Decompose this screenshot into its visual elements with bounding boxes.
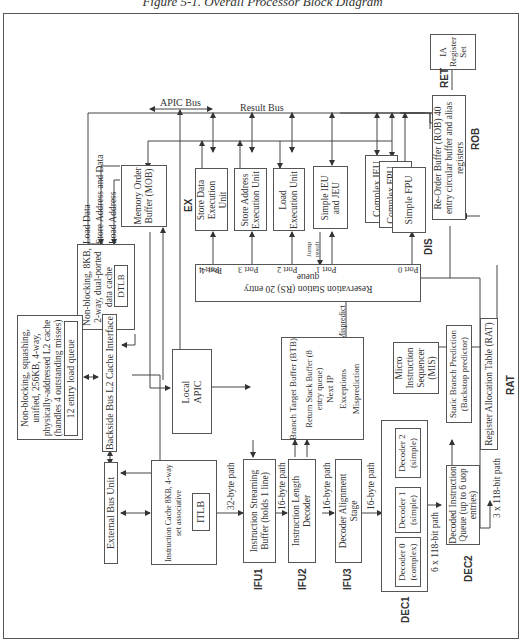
apic-bus-label: APIC Bus <box>160 97 201 108</box>
stage-ex: EX <box>183 199 194 212</box>
store-address-data-label: Store Address and Data <box>95 155 106 244</box>
local-apic: Local APIC <box>172 349 212 434</box>
port-4: Port 4 <box>199 265 220 275</box>
load-execution-unit: Load Execution Unit <box>273 168 305 231</box>
stage-dec2: DEC2 <box>463 555 474 582</box>
path-32-byte-label: 32-byte path <box>226 462 237 510</box>
stage-dec1: DEC1 <box>400 596 411 623</box>
stage-ret: RET <box>439 68 450 88</box>
stage-ifu1: IFU1 <box>253 568 264 590</box>
external-bus-unit: External Bus Unit <box>104 462 118 564</box>
load-data-label: Load Data <box>82 204 93 244</box>
load-queue: 12 entry load queue <box>64 321 78 436</box>
decoder-2: Decoder 2 (simple) <box>395 428 421 478</box>
simple-ieu-jeu: Simple IEU and JEU <box>313 166 348 229</box>
decoder-1: Decoder 1 (simple) <box>395 487 421 533</box>
decoder-group: Decoder 0 (complex) Decoder 1 (simple) D… <box>381 420 428 592</box>
reservation-station: Reservation Station (RS) 20 entry queue … <box>195 264 421 302</box>
jump-result-label: Jump result <box>305 237 321 257</box>
path-6x118-label: 6 x 118-bit path <box>430 512 441 572</box>
stage-dis: DIS <box>423 238 434 255</box>
port-2: Port 2 <box>277 265 298 275</box>
figure-title: Figure 5-1. Overall Processor Block Diag… <box>0 0 525 10</box>
btb: Branch Target Buffer (BTB) <box>282 338 304 439</box>
reorder-buffer: Re-Order Buffer (ROB) 40 entry circular … <box>432 95 466 220</box>
store-address-execution-unit: Store Address Execution Unit <box>234 168 267 231</box>
result-bus-label: Result Bus <box>240 102 284 113</box>
path-3x118-label: 3 x 118-bit path <box>492 458 503 518</box>
simple-fpu: Simple FPU <box>392 167 426 233</box>
path-16-byte-label-2: 16-byte path <box>322 462 333 510</box>
instruction-cache: Instruction Cache 8KB, 4-way set associa… <box>151 460 217 565</box>
memory-order-buffer: Memory Order Buffer (MOB) <box>121 165 167 227</box>
mispredict-label: Mispredict <box>337 305 348 340</box>
path-16-byte-label-3: 16-byte path <box>366 462 377 510</box>
load-address-label: Load Address <box>108 191 119 244</box>
port-3: Port 3 <box>238 265 259 275</box>
port-1: Port 1 <box>316 265 337 275</box>
store-data-execution-unit: Store Data Execution Unit <box>195 168 228 231</box>
stage-rat: RAT <box>505 375 516 395</box>
exceptions: Exceptions <box>336 338 350 439</box>
l2-cache: Non-blocking, squashing, unified, 256KB,… <box>17 315 83 440</box>
path-16-byte-label-1: 16-byte path <box>277 462 288 510</box>
misprediction: Misprediction <box>349 338 363 439</box>
micro-instruction-sequencer: Micro Instruction Sequencer (MIS) <box>393 342 439 394</box>
itlb: ITLB <box>192 493 210 531</box>
decoder-0: Decoder 0 (complex) <box>395 537 421 587</box>
decoded-instruction-queue: Decoded Instruction Queue (up to 6 uop e… <box>446 465 480 545</box>
stage-ifu2: IFU2 <box>297 568 308 590</box>
branch-target-buffer-group: Branch Target Buffer (BTB) Return Stack … <box>281 337 364 440</box>
stage-ifu3: IFU3 <box>342 568 353 590</box>
stage-rob: ROB <box>470 128 481 150</box>
dtlb: DTLB <box>114 265 128 307</box>
return-stack-buffer: Return Stack Buffer (8 entry queue) <box>303 338 325 439</box>
register-allocation-table: Register Allocation Table (RAT) <box>480 318 498 450</box>
ia-register-set: IA Register Set <box>430 34 476 70</box>
instruction-streaming-buffer: Instruction Streaming Buffer (holds 1 li… <box>243 459 276 563</box>
static-branch-prediction: Static Branch Prediction (Backstop predi… <box>446 325 472 423</box>
port-0: Port 0 <box>398 265 419 275</box>
instruction-length-decoder: Instruction Length Decoder <box>288 459 316 563</box>
backside-bus-interface: Backside Bus L2 Cache Interface <box>102 314 117 452</box>
decoder-alignment-stage: Decoder Alignment Stage <box>335 459 362 563</box>
